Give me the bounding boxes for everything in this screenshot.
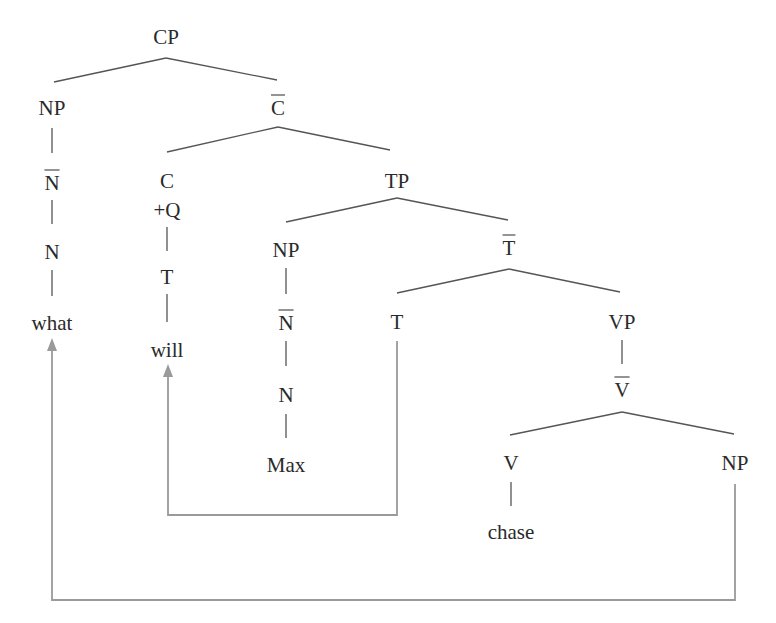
node-tp: TP (385, 171, 410, 192)
node-cp: CP (153, 27, 179, 48)
feature-plus-q: +Q (153, 200, 180, 221)
node-v-bar: V (614, 380, 629, 401)
movement-arrows (52, 341, 735, 600)
node-t-in-c: T (161, 267, 174, 288)
node-n-what: N (44, 242, 59, 263)
node-n-max: N (278, 385, 293, 406)
node-np-object: NP (722, 453, 749, 474)
node-n-bar-what: N (44, 173, 59, 194)
node-np-spec-cp: NP (39, 98, 66, 119)
arrowhead-will-icon (163, 364, 173, 377)
node-vp: VP (609, 312, 636, 333)
branch-lines (52, 58, 734, 506)
word-chase: chase (488, 522, 535, 543)
word-will: will (151, 340, 184, 361)
node-v-head: V (503, 453, 518, 474)
node-np-subject: NP (273, 240, 300, 261)
node-t-head: T (391, 312, 404, 333)
node-c-bar: C (271, 98, 285, 119)
node-c: C (160, 171, 174, 192)
tree-branches (0, 0, 776, 623)
arrowhead-what-icon (47, 338, 57, 351)
word-max: Max (267, 455, 306, 476)
word-what: what (32, 313, 73, 334)
t-to-c-movement-arrow (168, 341, 397, 515)
wh-movement-arrow (52, 346, 735, 600)
node-t-bar: T (503, 238, 516, 259)
node-n-bar-max: N (278, 313, 293, 334)
